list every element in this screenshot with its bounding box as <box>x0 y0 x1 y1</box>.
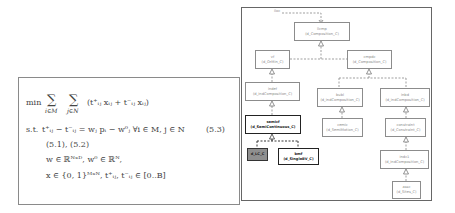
node-vf[interactable]: vf (d_OrMin_C) <box>255 50 290 69</box>
arrowhead-llcmp <box>319 41 324 46</box>
node-type: (d_Constraint_C) <box>386 128 425 133</box>
node-type: (d_Composition_C) <box>295 32 349 37</box>
node-indc1[interactable]: indc1 (d_indComposition_C) <box>380 150 429 169</box>
node-type: (d_SemiMotion_C) <box>323 128 362 133</box>
node-type: (d_Sites_C) <box>393 190 420 195</box>
node-name: d_LC_C <box>248 152 267 157</box>
arrowhead-indc1 <box>404 169 409 174</box>
arrowhead-vf <box>270 69 275 74</box>
node-semicf[interactable]: semicf (d_SemiContinuous_C) <box>245 115 301 134</box>
node-d-lc-c[interactable]: d_LC_C <box>247 148 268 161</box>
node-cemic[interactable]: cemic (d_SemiMotion_C) <box>322 118 363 137</box>
arrowhead-inbd <box>404 107 409 112</box>
arrowhead-cmpdc <box>367 69 372 74</box>
node-type: (d_SemiContinuous_C) <box>246 125 300 130</box>
node-bubl[interactable]: bubl (d_indComposition_C) <box>317 88 363 107</box>
arrowhead-bubl <box>340 107 345 112</box>
node-indef[interactable]: indef (d_indComposition_C) <box>245 82 300 101</box>
node-type: (d_indComposition_C) <box>246 92 299 97</box>
node-type: (d_indComposition_C) <box>318 98 362 103</box>
node-type: (d_indComposition_C) <box>381 98 429 103</box>
node-assc[interactable]: assc (d_Sites_C) <box>392 181 421 199</box>
edge-iloc-llcmp <box>282 13 321 22</box>
node-llcmp[interactable]: llcmp (d_Composition_C) <box>294 22 350 41</box>
node-type: (d_SingleBV_C) <box>279 157 318 162</box>
arrowhead-indef <box>270 101 275 106</box>
node-type: (d_Composition_C) <box>348 60 391 65</box>
node-cmpdc[interactable]: cmpdc (d_Composition_C) <box>347 50 392 69</box>
arrowhead-semicf <box>270 134 275 139</box>
node-constraint[interactable]: constraint (d_Constraint_C) <box>385 118 426 137</box>
node-bmf[interactable]: bmf (d_SingleBV_C) <box>278 148 319 165</box>
node-inbd[interactable]: inbd (d_indComposition_C) <box>380 88 430 107</box>
node-type: (d_OrMin_C) <box>256 60 289 65</box>
root-label: iloc <box>274 9 280 13</box>
node-type: (d_indComposition_C) <box>381 160 428 165</box>
arrowhead-constraint <box>404 137 409 142</box>
